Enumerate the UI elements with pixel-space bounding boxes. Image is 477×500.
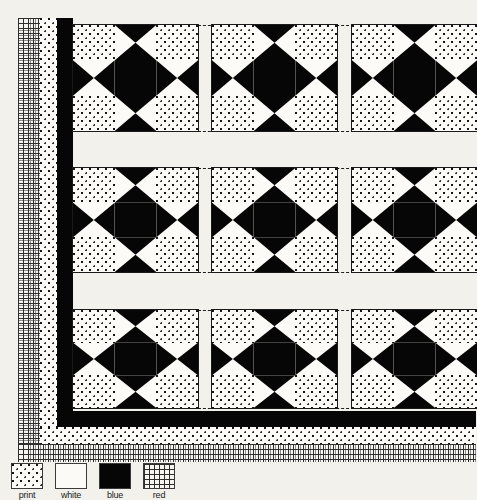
block-center-square <box>254 60 296 95</box>
block-corner-square <box>435 310 477 343</box>
star-block <box>73 310 198 408</box>
block-star-point <box>73 203 115 238</box>
block-star-point <box>254 375 296 408</box>
block-corner-square <box>352 237 394 272</box>
block-star-point <box>435 343 477 376</box>
block-star-point <box>254 237 296 272</box>
legend-item-white: white <box>56 464 86 500</box>
block-corner-square <box>352 25 394 60</box>
swatch-white-icon <box>56 464 86 488</box>
block-corner-square <box>156 96 198 131</box>
star-block <box>212 25 337 131</box>
swatch-blue-icon <box>100 464 130 488</box>
block-star-point <box>212 203 254 238</box>
inner-border-bottom <box>57 411 476 427</box>
block-center-square <box>254 343 296 376</box>
block-corner-square <box>212 237 254 272</box>
block-corner-square <box>295 25 337 60</box>
star-block <box>212 310 337 408</box>
block-star-point <box>394 25 436 60</box>
block-corner-square <box>73 310 115 343</box>
block-star-point <box>254 310 296 343</box>
block-center-square <box>254 203 296 238</box>
block-corner-square <box>73 168 115 203</box>
block-corner-square <box>73 96 115 131</box>
block-star-point <box>295 203 337 238</box>
block-center-square <box>394 203 436 238</box>
block-corner-square <box>73 375 115 408</box>
block-star-point <box>352 203 394 238</box>
star-block <box>73 25 198 131</box>
block-star-point <box>156 203 198 238</box>
sashing-guide-line <box>198 310 199 408</box>
star-block <box>212 168 337 272</box>
outer-border-left <box>18 18 40 462</box>
swatch-print-icon <box>12 464 42 488</box>
middle-border-left <box>40 18 57 444</box>
block-corner-square <box>212 168 254 203</box>
block-corner-square <box>435 25 477 60</box>
legend-label-red: red <box>144 490 174 500</box>
block-corner-square <box>295 96 337 131</box>
block-corner-square <box>156 310 198 343</box>
block-star-point <box>115 310 157 343</box>
block-corner-square <box>156 237 198 272</box>
block-corner-square <box>435 168 477 203</box>
star-block <box>352 310 477 408</box>
block-corner-square <box>295 168 337 203</box>
block-corner-square <box>212 310 254 343</box>
block-corner-square <box>73 237 115 272</box>
block-center-square <box>394 343 436 376</box>
block-corner-square <box>212 96 254 131</box>
block-corner-square <box>435 237 477 272</box>
block-star-point <box>295 60 337 95</box>
block-star-point <box>435 60 477 95</box>
block-corner-square <box>435 96 477 131</box>
sashing-guide-line <box>198 131 354 132</box>
outer-border-bottom <box>18 444 476 462</box>
inner-border-left <box>57 18 73 427</box>
block-corner-square <box>352 310 394 343</box>
block-star-point <box>73 60 115 95</box>
legend-item-red: red <box>144 464 174 500</box>
block-star-point <box>156 343 198 376</box>
block-corner-square <box>295 310 337 343</box>
legend-item-print: print <box>12 464 42 500</box>
block-corner-square <box>156 375 198 408</box>
block-corner-square <box>352 96 394 131</box>
block-star-point <box>115 375 157 408</box>
block-corner-square <box>156 25 198 60</box>
block-corner-square <box>435 375 477 408</box>
block-star-point <box>394 310 436 343</box>
block-star-point <box>212 60 254 95</box>
block-center-square <box>115 203 157 238</box>
block-star-point <box>394 375 436 408</box>
sashing-guide-line <box>198 408 354 409</box>
block-center-square <box>115 343 157 376</box>
block-star-point <box>352 60 394 95</box>
block-corner-square <box>73 25 115 60</box>
middle-border-bottom <box>40 427 476 444</box>
block-corner-square <box>295 237 337 272</box>
block-corner-square <box>212 25 254 60</box>
block-star-point <box>254 96 296 131</box>
sashing-guide-line <box>198 25 199 131</box>
block-center-square <box>115 60 157 95</box>
block-star-point <box>352 343 394 376</box>
block-star-point <box>115 25 157 60</box>
legend-label-print: print <box>12 490 42 500</box>
block-star-point <box>394 168 436 203</box>
block-star-point <box>115 168 157 203</box>
legend-item-blue: blue <box>100 464 130 500</box>
legend-label-blue: blue <box>100 490 130 500</box>
sashing-guide-line <box>198 168 199 272</box>
sashing-guide-line <box>198 272 354 273</box>
block-star-point <box>115 237 157 272</box>
star-block <box>73 168 198 272</box>
legend-label-white: white <box>56 490 86 500</box>
block-star-point <box>394 96 436 131</box>
star-block <box>352 25 477 131</box>
fabric-key: print white blue red <box>12 464 174 500</box>
block-star-point <box>295 343 337 376</box>
